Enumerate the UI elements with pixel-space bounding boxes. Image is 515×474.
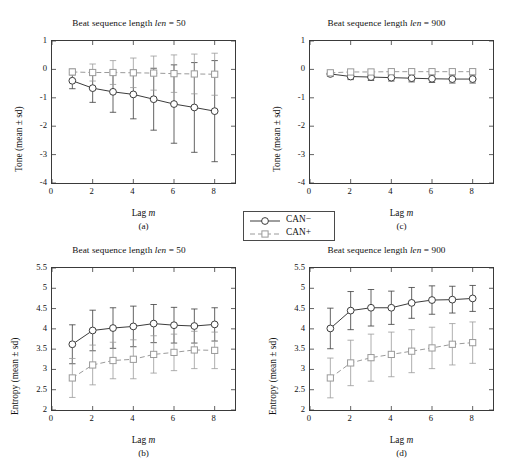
- panel-c: Beat sequence length len = 900 Tone (mea…: [258, 12, 515, 234]
- panel-a-ylabel: Tone (mean ± sd): [14, 106, 24, 172]
- x-tick-label: 0: [39, 186, 63, 196]
- x-tick-label: 4: [378, 186, 402, 196]
- x-tick-label: 6: [419, 186, 443, 196]
- panel-c-plot-area: [309, 40, 494, 184]
- y-tick-label: 1: [19, 35, 47, 45]
- panel-b-plot-area: [51, 267, 236, 411]
- panel-c-ylabel: Tone (mean ± sd): [272, 106, 282, 172]
- x-tick-label: 2: [338, 186, 362, 196]
- x-tick-label: 6: [161, 186, 185, 196]
- x-tick-label: 0: [297, 186, 321, 196]
- series-can-plus: [69, 331, 218, 397]
- panel-a-svg: [52, 41, 235, 183]
- series-can-minus: [69, 305, 218, 364]
- panel-a-caption: (a): [51, 221, 236, 231]
- y-tick-label: 2: [19, 404, 47, 414]
- panel-b-xlabel: Lag m: [51, 435, 236, 445]
- y-tick-label: -4: [19, 177, 47, 187]
- y-tick-label: 3: [277, 363, 305, 373]
- y-tick-label: 0: [277, 63, 305, 73]
- y-tick-label: 5: [19, 282, 47, 292]
- y-tick-label: -2: [277, 120, 305, 130]
- x-tick-label: 4: [120, 413, 144, 423]
- x-tick-label: 4: [120, 186, 144, 196]
- figure-root: Beat sequence length len = 50 Tone (mean…: [0, 0, 515, 474]
- series-can-plus: [327, 322, 476, 398]
- panel-c-svg: [310, 41, 493, 183]
- legend: CAN− CAN+: [243, 211, 335, 241]
- y-tick-label: 4.5: [19, 303, 47, 313]
- series-can-plus: [327, 69, 476, 76]
- legend-symbols: [244, 212, 336, 242]
- panel-c-xlabel: Lag m: [309, 208, 494, 218]
- x-tick-label: 8: [202, 413, 226, 423]
- panel-b-svg: [52, 268, 235, 410]
- panel-a-xlabel: Lag m: [51, 208, 236, 218]
- x-tick-label: 2: [80, 413, 104, 423]
- panel-c-title: Beat sequence length len = 900: [258, 18, 515, 28]
- y-tick-label: 2.5: [19, 384, 47, 394]
- y-tick-label: 5.5: [277, 262, 305, 272]
- y-tick-label: 3.5: [277, 343, 305, 353]
- x-tick-label: 4: [378, 413, 402, 423]
- y-tick-label: 4: [277, 323, 305, 333]
- y-tick-label: -2: [19, 120, 47, 130]
- y-tick-label: 0: [19, 63, 47, 73]
- panel-d-caption: (d): [309, 448, 494, 458]
- y-tick-label: 5: [277, 282, 305, 292]
- y-tick-label: 4.5: [277, 303, 305, 313]
- x-tick-label: 2: [338, 413, 362, 423]
- panel-a-plot-area: [51, 40, 236, 184]
- y-tick-label: 1: [277, 35, 305, 45]
- y-tick-label: -4: [277, 177, 305, 187]
- panel-d-svg: [310, 268, 493, 410]
- y-tick-label: 3: [19, 363, 47, 373]
- x-tick-label: 6: [161, 413, 185, 423]
- y-tick-label: -1: [19, 92, 47, 102]
- series-can-minus: [327, 285, 476, 348]
- y-tick-label: -1: [277, 92, 305, 102]
- x-tick-label: 6: [419, 413, 443, 423]
- panel-d-plot-area: [309, 267, 494, 411]
- y-tick-label: -3: [19, 149, 47, 159]
- panel-c-caption: (c): [309, 221, 494, 231]
- panel-d-xlabel: Lag m: [309, 435, 494, 445]
- x-tick-label: 8: [202, 186, 226, 196]
- x-tick-label: 0: [39, 413, 63, 423]
- y-tick-label: 2.5: [277, 384, 305, 394]
- x-tick-label: 2: [80, 186, 104, 196]
- panel-b-caption: (b): [51, 448, 236, 458]
- x-tick-label: 0: [297, 413, 321, 423]
- panel-b: Beat sequence length len = 50 Entropy (m…: [0, 243, 258, 471]
- y-tick-label: 4: [19, 323, 47, 333]
- panel-d: Beat sequence length len = 900 Entropy (…: [258, 243, 515, 471]
- y-tick-label: 5.5: [19, 262, 47, 272]
- panel-a-title: Beat sequence length len = 50: [0, 18, 258, 28]
- panel-a: Beat sequence length len = 50 Tone (mean…: [0, 12, 258, 234]
- panel-b-title: Beat sequence length len = 50: [0, 245, 258, 255]
- y-tick-label: -3: [277, 149, 305, 159]
- y-tick-label: 3.5: [19, 343, 47, 353]
- x-tick-label: 8: [460, 413, 484, 423]
- x-tick-label: 8: [460, 186, 484, 196]
- y-tick-label: 2: [277, 404, 305, 414]
- panel-d-title: Beat sequence length len = 900: [258, 245, 515, 255]
